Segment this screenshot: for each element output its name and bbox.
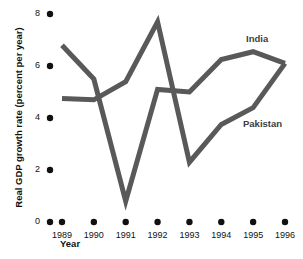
x-tick-label-1991: 1991 <box>111 230 141 240</box>
y-tick-dot-0 <box>47 219 53 225</box>
x-tick-dot-1989 <box>59 219 65 225</box>
y-tick-label-2: 2 <box>26 164 40 174</box>
x-tick-dot-1995 <box>250 219 256 225</box>
x-tick-label-1992: 1992 <box>143 230 173 240</box>
series-lines-layer <box>62 22 285 201</box>
x-tick-dot-1996 <box>282 219 288 225</box>
x-tick-dot-1992 <box>154 219 160 225</box>
series-label-india: India <box>246 33 268 44</box>
x-tick-label-1990: 1990 <box>79 230 109 240</box>
x-tick-label-1995: 1995 <box>238 230 268 240</box>
x-tick-label-1993: 1993 <box>174 230 204 240</box>
y-axis-title: Real GDP growth rate (percent per year) <box>13 18 24 218</box>
y-tick-dot-8 <box>47 11 53 17</box>
x-tick-label-1989: 1989 <box>47 230 77 240</box>
y-tick-dot-6 <box>47 63 53 69</box>
gdp-growth-line-chart: Real GDP growth rate (percent per year) … <box>0 0 303 259</box>
series-label-pakistan: Pakistan <box>243 118 282 129</box>
x-tick-dot-1990 <box>91 219 97 225</box>
x-tick-dot-1993 <box>186 219 192 225</box>
y-tick-label-8: 8 <box>26 8 40 18</box>
y-tick-label-4: 4 <box>26 112 40 122</box>
x-tick-dot-1991 <box>123 219 129 225</box>
x-tick-label-1996: 1996 <box>270 230 300 240</box>
y-tick-label-6: 6 <box>26 60 40 70</box>
y-tick-dot-2 <box>47 167 53 173</box>
y-tick-label-0: 0 <box>26 216 40 226</box>
x-tick-label-1994: 1994 <box>206 230 236 240</box>
y-tick-dot-4 <box>47 115 53 121</box>
x-tick-dot-1994 <box>218 219 224 225</box>
